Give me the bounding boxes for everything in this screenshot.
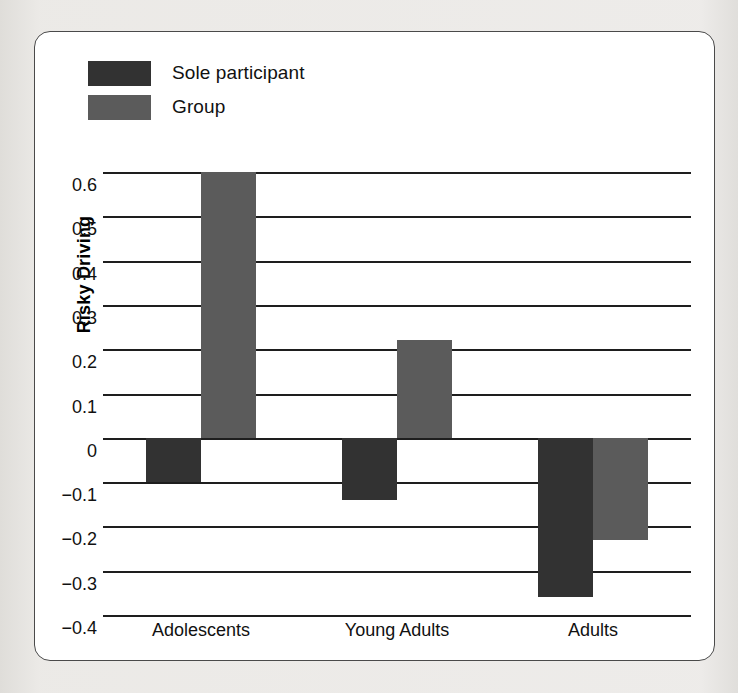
x-axis-label-adolescents: Adolescents [103,620,299,641]
x-axis-label-adults: Adults [495,620,691,641]
bar-young-adults-sole-participant [342,438,397,500]
legend-label-sole-participant: Sole participant [172,62,305,84]
bar-adolescents-sole-participant [146,438,201,482]
y-axis-tick-label: −0.1 [41,485,97,506]
y-axis-tick-label: −0.3 [41,574,97,595]
y-axis-tick-label: −0.2 [41,529,97,550]
chart-legend: Sole participant Group [88,56,305,124]
y-axis-tick-label: 0.1 [41,397,97,418]
legend-label-group: Group [172,96,225,118]
y-axis-tick-label: 0 [41,441,97,462]
y-axis-tick-label: 0.6 [41,175,97,196]
bars-layer [103,172,691,615]
bar-chart: Sole participant Group Risky Driving 0.6… [35,32,716,662]
legend-swatch-sole-participant [88,61,151,86]
bar-adolescents-group [201,172,256,438]
bar-adults-group [593,438,648,540]
y-axis-tick-label: 0.4 [41,264,97,285]
bar-adults-sole-participant [538,438,593,597]
plot-area: 0.60.50.40.30.20.10−0.1−0.2−0.3−0.4 [103,172,691,615]
x-axis-label-young-adults: Young Adults [299,620,495,641]
y-axis-tick-label: 0.5 [41,219,97,240]
legend-item-sole-participant: Sole participant [88,56,305,90]
y-axis-tick-label: 0.2 [41,352,97,373]
gridline [103,615,691,617]
x-axis-labels: AdolescentsYoung AdultsAdults [103,620,691,650]
figure-card: Sole participant Group Risky Driving 0.6… [34,31,715,661]
legend-item-group: Group [88,90,305,124]
legend-swatch-group [88,95,151,120]
bar-young-adults-group [397,340,452,437]
y-axis-tick-label: −0.4 [41,618,97,639]
y-axis-tick-label: 0.3 [41,308,97,329]
